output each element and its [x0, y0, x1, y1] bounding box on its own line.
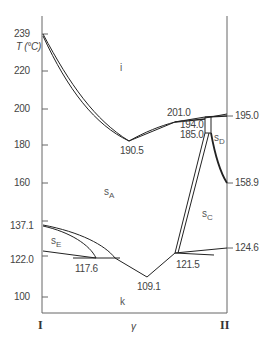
sA-sC-boundary-a: [175, 133, 205, 253]
phase-label-sC: sC: [202, 208, 213, 222]
clearing-curve-upper: [43, 34, 129, 141]
phase-label-sE: sE: [51, 235, 61, 249]
y-tick-180: 180: [14, 140, 30, 150]
phase-label-sA: sA: [104, 186, 114, 200]
point-label-190-5: 190.5: [120, 146, 144, 156]
y-axis-label: T (°C): [16, 42, 41, 52]
sA-sC-boundary-b: [178, 133, 209, 253]
curve-121-124: [175, 248, 227, 253]
point-label-121-5: 121.5: [176, 260, 200, 270]
left-axis-ticks: [42, 34, 48, 297]
y-tick-160: 160: [14, 178, 30, 188]
curve-121-eutectic-line: [175, 253, 214, 255]
y-tick-200: 200: [14, 104, 30, 114]
curve-190-201-a: [129, 122, 175, 141]
point-label-201-0: 201.0: [167, 108, 191, 118]
right-axis-ticks: [227, 116, 233, 248]
x-axis-left-end: I: [38, 318, 43, 333]
x-axis-right-end: II: [220, 318, 229, 333]
y-tick-122-0: 122.0: [10, 255, 34, 265]
phase-label-k: k: [120, 296, 125, 307]
curve-121-109: [147, 253, 175, 277]
y-tick-220: 220: [14, 66, 30, 76]
right-value-124-6: 124.6: [235, 243, 259, 253]
y-tick-239: 239: [14, 29, 30, 39]
x-axis-label: γ: [131, 322, 136, 332]
phase-label-i: i: [120, 62, 122, 73]
right-value-195: 195.0: [235, 111, 259, 121]
sE-boundary-lower: [43, 251, 96, 258]
y-tick-137-1: 137.1: [10, 221, 34, 231]
clearing-curve-lower: [43, 36, 129, 141]
right-value-158-9: 158.9: [235, 178, 259, 188]
point-label-117-6: 117.6: [75, 264, 98, 274]
curve-109-eutectic: [115, 258, 147, 277]
point-label-185-0: 185.0: [180, 130, 204, 140]
point-label-109-1: 109.1: [137, 282, 161, 292]
y-tick-100: 100: [14, 292, 30, 302]
phase-label-sD: sD: [214, 132, 225, 146]
